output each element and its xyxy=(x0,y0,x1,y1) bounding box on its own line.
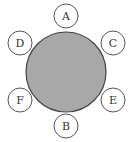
seat-d: D xyxy=(8,31,32,55)
round-table-diagram: A D C F E B xyxy=(0,0,132,142)
seat-a: A xyxy=(54,4,78,28)
seat-f: F xyxy=(8,88,32,112)
seat-label: E xyxy=(109,94,117,107)
seat-label: D xyxy=(16,37,25,50)
round-table xyxy=(26,32,106,112)
seat-b: B xyxy=(54,114,78,138)
seat-label: A xyxy=(61,10,71,23)
seat-label: B xyxy=(62,120,70,133)
seat-c: C xyxy=(101,31,125,55)
seat-label: C xyxy=(109,37,117,50)
seat-e: E xyxy=(101,88,125,112)
seat-label: F xyxy=(16,94,24,107)
